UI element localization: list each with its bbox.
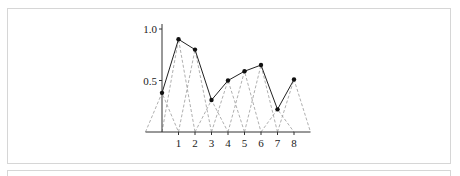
hat-function [245, 65, 278, 132]
x-tick-label: 2 [192, 137, 198, 149]
x-tick-label: 7 [275, 137, 281, 149]
data-point [275, 107, 279, 111]
data-point [160, 91, 164, 95]
data-point [259, 63, 263, 67]
data-point [209, 98, 213, 102]
x-tick-label: 8 [291, 137, 297, 149]
hat-basis-functions [146, 39, 311, 132]
hat-function [261, 109, 294, 132]
data-point [193, 47, 197, 51]
hat-function [195, 100, 228, 132]
x-tick-label: 5 [242, 137, 248, 149]
x-tick-label: 4 [225, 137, 231, 149]
hat-function [179, 50, 212, 132]
x-tick-label: 6 [258, 137, 264, 149]
hat-function [228, 71, 261, 132]
data-point [226, 78, 230, 82]
interpolant-polyline [162, 39, 294, 109]
interpolant-line [162, 39, 294, 109]
tick-labels: 123456780.51.0 [143, 23, 297, 149]
x-tick-label: 3 [209, 137, 215, 149]
y-tick-label: 1.0 [143, 23, 157, 35]
data-point [292, 77, 296, 81]
data-point [176, 37, 180, 41]
data-point [242, 69, 246, 73]
hat-function [162, 39, 195, 132]
hat-function-chart: 123456780.51.0 [0, 0, 460, 176]
y-tick-label: 0.5 [143, 75, 157, 87]
x-tick-label: 1 [176, 137, 182, 149]
hat-function [278, 79, 311, 132]
data-points [160, 37, 296, 111]
